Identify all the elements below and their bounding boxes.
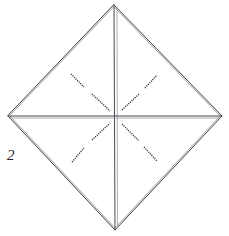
fold-mark-lower-right-outer (144, 147, 157, 161)
fold-mark-upper-right-inner (122, 94, 139, 110)
fold-mark-upper-right-outer (145, 75, 157, 88)
fold-mark-lower-left-inner (92, 123, 110, 140)
vertical-crease-line-shadow (117, 7, 118, 228)
fold-mark-lower-right-inner (122, 124, 139, 141)
crease-group (8, 5, 222, 230)
fold-mark-upper-left-outer (71, 74, 84, 87)
origami-figure (0, 0, 229, 236)
vertical-crease-line (114, 5, 115, 230)
fold-mark-lower-left-outer (72, 148, 84, 162)
step-number-label: 2 (7, 146, 15, 164)
fold-mark-upper-left-inner (92, 94, 110, 111)
origami-diagram: 2 (0, 0, 229, 236)
